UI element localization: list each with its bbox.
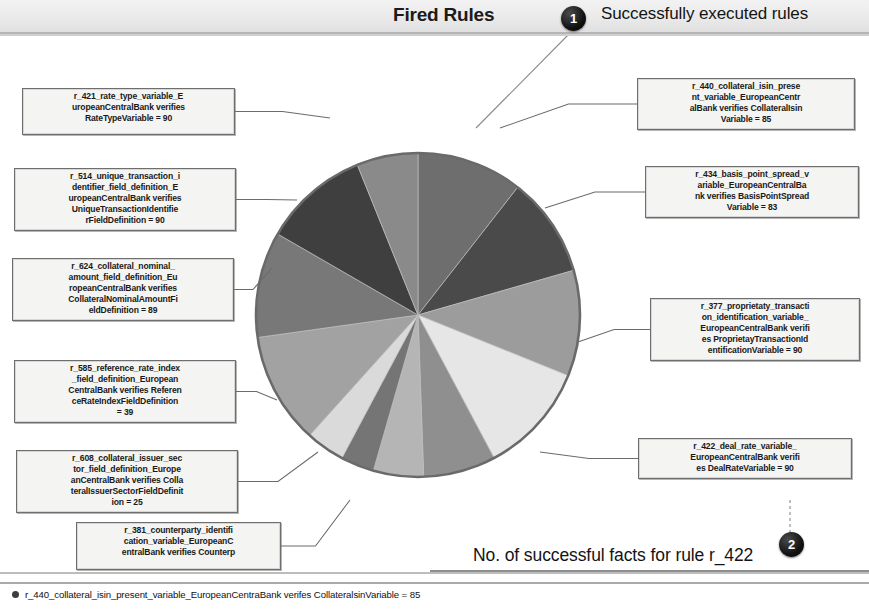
data-label-line: dentifier_field_definition_E — [17, 182, 233, 193]
data-label-line: ceRateIndexFieldDefinition — [17, 396, 233, 407]
data-label-line: ropeanCentralBank verifies — [15, 283, 231, 294]
pie-slices[interactable] — [256, 153, 580, 477]
leader-line-r_434 — [545, 192, 645, 208]
data-label-line: r_585_reference_rate_index — [17, 363, 233, 374]
legend-label: r_440_collateral_isin_present_variable_E… — [25, 589, 420, 600]
data-label-line: UniqueTransactionIdentifie — [17, 204, 233, 215]
leader-line-r_514 — [236, 200, 297, 201]
data-label-line: tor_field_definition_Europe — [19, 464, 235, 475]
data-label-line: nt_variable_EuropeanCentr — [640, 92, 852, 103]
data-label-r_421[interactable]: r_421_rate_type_variable_EuropeanCentral… — [22, 88, 235, 135]
callout-note-2: No. of successful facts for rule r_422 — [473, 545, 753, 566]
data-label-line: teralIssuerSectorFieldDefinit — [19, 486, 235, 497]
leader-line-r_421 — [235, 112, 330, 119]
leader-line-r_422 — [540, 452, 638, 459]
legend-swatch-icon — [12, 591, 19, 598]
data-label-r_377[interactable]: r_377_proprietaty_transaction_identifica… — [650, 298, 860, 361]
legend-divider — [0, 572, 869, 574]
data-label-line: rFieldDefinition = 90 — [17, 215, 233, 226]
data-label-line: EuropeanCentralBank verifi — [653, 323, 857, 334]
leader-line-r_440 — [500, 104, 637, 128]
data-label-line: entralBank verifies Counterp — [79, 547, 278, 558]
data-label-r_624[interactable]: r_624_collateral_nominal_amount_field_de… — [12, 258, 234, 321]
data-label-line: r_421_rate_type_variable_E — [25, 91, 232, 102]
data-label-line: r_440_collateral_isin_prese — [640, 81, 852, 92]
data-label-line: alBank verifies CollateralIsin — [640, 103, 852, 114]
data-label-line: r_514_unique_transaction_i — [17, 171, 233, 182]
leader-line-r_377 — [578, 330, 650, 343]
data-label-line: = 39 — [17, 407, 233, 418]
leader-line-r_381 — [281, 500, 350, 546]
data-label-line: CentralBank verifies Referen — [17, 385, 233, 396]
callout-note-1: Successfully executed rules — [601, 4, 808, 24]
data-label-line: uropeanCentralBank verifies — [17, 193, 233, 204]
data-label-line: _field_definition_European — [17, 374, 233, 385]
data-label-line: r_422_deal_rate_variable_ — [641, 441, 849, 452]
data-label-line: uropeanCentralBank verifies — [25, 102, 232, 113]
data-label-r_514[interactable]: r_514_unique_transaction_identifier_fiel… — [14, 168, 236, 231]
data-label-line: ion = 25 — [19, 497, 235, 508]
data-label-line: r_434_basis_point_spread_v — [648, 169, 856, 180]
data-label-line: entificationVariable = 90 — [653, 345, 857, 356]
callout-1-leader — [476, 32, 571, 128]
data-label-line: nk verifies BasisPointSpread — [648, 191, 856, 202]
callout-marker-2[interactable]: 2 — [779, 532, 804, 557]
page-title: Fired Rules — [393, 4, 494, 26]
data-label-line: r_608_collateral_issuer_sec — [19, 453, 235, 464]
data-label-r_434[interactable]: r_434_basis_point_spread_variable_Europe… — [645, 166, 859, 218]
data-label-line: Variable = 85 — [640, 114, 852, 125]
data-label-r_422[interactable]: r_422_deal_rate_variable_EuropeanCentral… — [638, 438, 852, 479]
data-label-line: es DealRateVariable = 90 — [641, 463, 849, 474]
data-label-r_440[interactable]: r_440_collateral_isin_present_variable_E… — [637, 78, 855, 130]
data-label-line: cation_variable_EuropeanC — [79, 536, 278, 547]
data-label-r_381[interactable]: r_381_counterparty_identification_variab… — [76, 522, 281, 570]
data-label-line: Variable = 83 — [648, 202, 856, 213]
data-label-line: CollateralNominalAmountFi — [15, 294, 231, 305]
data-label-line: amount_field_definition_Eu — [15, 272, 231, 283]
data-label-line: on_identification_variable_ — [653, 312, 857, 323]
legend-strip: r_440_collateral_isin_present_variable_E… — [0, 582, 869, 611]
data-label-line: ariable_EuropeanCentralBa — [648, 180, 856, 191]
leader-line-r_608 — [238, 452, 318, 482]
legend-item[interactable]: r_440_collateral_isin_present_variable_E… — [12, 589, 420, 600]
data-label-line: r_381_counterparty_identifi — [79, 525, 278, 536]
data-label-r_585[interactable]: r_585_reference_rate_index_field_definit… — [14, 360, 236, 423]
data-label-line: es ProprietayTransactionId — [653, 334, 857, 345]
data-label-line: eldDefinition = 89 — [15, 305, 231, 316]
data-label-r_608[interactable]: r_608_collateral_issuer_sector_field_def… — [16, 450, 238, 513]
leader-line-r_585 — [236, 392, 277, 401]
data-label-line: RateTypeVariable = 90 — [25, 113, 232, 124]
data-label-line: r_624_collateral_nominal_ — [15, 261, 231, 272]
data-label-line: r_377_proprietaty_transacti — [653, 301, 857, 312]
data-label-line: anCentralBank verifies Colla — [19, 475, 235, 486]
data-label-line: EuropeanCentralBank verifi — [641, 452, 849, 463]
callout-marker-1[interactable]: 1 — [561, 6, 586, 31]
